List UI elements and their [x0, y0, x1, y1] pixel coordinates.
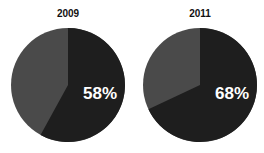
pie-percent-label: 68%	[215, 84, 249, 103]
pie-graphic-2009: 58%	[2, 0, 134, 153]
pie-chart-2011: 2011 68%	[134, 0, 264, 153]
pie-graphic-2011: 68%	[134, 0, 264, 153]
pie-percent-label: 58%	[83, 84, 117, 103]
pie-chart-2009: 2009 58%	[2, 0, 134, 153]
